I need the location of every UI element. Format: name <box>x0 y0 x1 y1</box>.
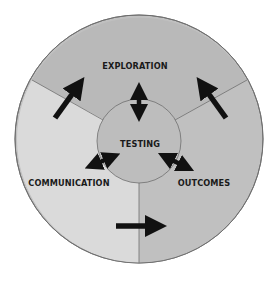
label-exploration: EXPLORATION <box>102 61 167 71</box>
label-communication: COMMUNICATION <box>28 178 109 188</box>
cycle-diagram: EXPLORATION TESTING COMMUNICATION OUTCOM… <box>0 0 274 283</box>
label-outcomes: OUTCOMES <box>178 178 231 188</box>
label-testing: TESTING <box>120 139 160 149</box>
